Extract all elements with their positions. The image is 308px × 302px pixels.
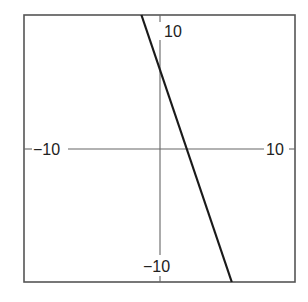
y-tick-label-bottom: −10 bbox=[143, 258, 170, 275]
x-tick-label-left: −10 bbox=[33, 141, 60, 158]
y-tick-label-top: 10 bbox=[164, 23, 182, 40]
chart-canvas: 10 −10 −10 10 bbox=[0, 0, 308, 302]
x-tick-label-right: 10 bbox=[266, 141, 284, 158]
